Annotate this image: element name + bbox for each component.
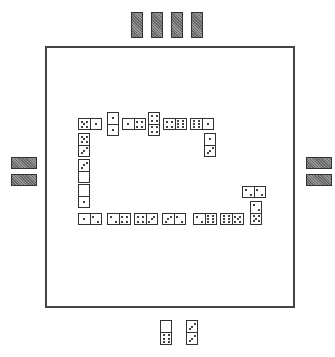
pip — [156, 126, 158, 128]
face-down-domino — [191, 12, 203, 38]
player-domino-tile[interactable] — [160, 320, 172, 345]
pip — [207, 215, 209, 217]
pip — [182, 123, 184, 125]
pip — [163, 341, 165, 343]
domino-half-3 — [79, 160, 89, 172]
pip — [86, 121, 88, 123]
pip — [115, 221, 117, 223]
domino-half-4 — [120, 214, 131, 224]
domino-half-4 — [164, 119, 176, 129]
face-down-domino — [131, 12, 143, 38]
face-down-domino — [151, 12, 163, 38]
domino-half-0 — [79, 172, 89, 183]
player-domino-tile[interactable] — [186, 320, 198, 345]
pip — [253, 204, 255, 206]
pip — [151, 218, 153, 220]
pip — [207, 123, 209, 125]
pip — [153, 216, 155, 218]
domino-half-2 — [255, 187, 266, 197]
pip — [95, 123, 97, 125]
domino-half-5 — [79, 134, 89, 146]
domino-half-3 — [79, 146, 89, 157]
domino-tile — [204, 133, 216, 157]
pip — [81, 136, 83, 138]
pip — [212, 215, 214, 217]
pip — [177, 126, 179, 128]
pip — [167, 218, 169, 220]
pip — [83, 218, 85, 220]
pip — [112, 129, 114, 131]
pip — [163, 338, 165, 340]
pip — [176, 216, 178, 218]
domino-tile — [148, 112, 160, 136]
domino-half-2 — [243, 187, 255, 197]
domino-tile — [190, 118, 214, 130]
pip — [142, 216, 144, 218]
pip — [81, 152, 83, 154]
pip — [193, 123, 195, 125]
pip — [171, 126, 173, 128]
domino-half-1 — [108, 125, 118, 136]
face-down-domino — [306, 157, 332, 169]
pip — [83, 150, 85, 152]
pip — [81, 126, 83, 128]
domino-tile — [78, 159, 90, 183]
pip — [165, 221, 167, 223]
domino-tile — [220, 213, 244, 225]
domino-half-4 — [135, 119, 146, 129]
pip — [261, 194, 263, 196]
pip — [258, 220, 260, 222]
pip — [168, 341, 170, 343]
face-down-domino — [306, 174, 332, 186]
pip — [171, 121, 173, 123]
pip — [151, 115, 153, 117]
pip — [207, 221, 209, 223]
domino-tile — [134, 213, 158, 225]
pip — [193, 126, 195, 128]
pip — [207, 152, 209, 154]
pip — [255, 218, 257, 220]
domino-half-3 — [187, 321, 197, 333]
pip — [151, 131, 153, 133]
domino-half-1 — [123, 119, 135, 129]
domino-half-3 — [147, 214, 158, 224]
pip — [126, 221, 128, 223]
pip — [194, 323, 196, 325]
pip — [137, 216, 139, 218]
pip — [156, 131, 158, 133]
domino-tile — [193, 213, 217, 225]
pip — [86, 141, 88, 143]
domino-half-2 — [194, 214, 206, 224]
pip — [156, 120, 158, 122]
domino-half-2 — [91, 214, 102, 224]
pip — [121, 216, 123, 218]
pip — [234, 216, 236, 218]
pip — [189, 328, 191, 330]
pip — [212, 221, 214, 223]
pip — [86, 162, 88, 164]
pip — [191, 326, 193, 328]
pip — [223, 221, 225, 223]
pip — [83, 138, 85, 140]
domino-half-6 — [191, 119, 203, 129]
domino-tile — [78, 213, 102, 225]
domino-half-1 — [203, 119, 214, 129]
pip — [141, 126, 143, 128]
pip — [223, 215, 225, 217]
pip — [151, 126, 153, 128]
pip — [81, 141, 83, 143]
pip — [189, 340, 191, 342]
domino-half-0 — [79, 185, 89, 197]
domino-half-4 — [135, 214, 147, 224]
pip — [182, 120, 184, 122]
domino-tile — [163, 118, 187, 130]
pip — [92, 216, 94, 218]
pip — [258, 209, 260, 211]
pip — [228, 218, 230, 220]
pip — [198, 123, 200, 125]
pip — [163, 334, 165, 336]
domino-half-1 — [79, 197, 89, 208]
pip — [237, 218, 239, 220]
pip — [97, 221, 99, 223]
domino-half-3 — [163, 214, 175, 224]
